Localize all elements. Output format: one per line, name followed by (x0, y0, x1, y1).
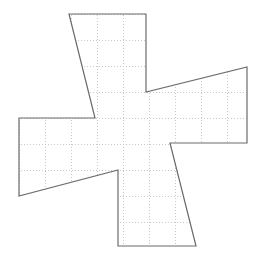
pinwheel-figure-svg (0, 0, 259, 264)
figure-canvas (0, 0, 259, 264)
